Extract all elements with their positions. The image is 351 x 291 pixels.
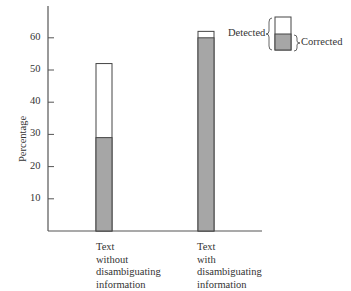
stacked-bar-chart <box>0 0 351 291</box>
category-line: information <box>197 279 262 291</box>
y-tick-label: 60 <box>30 31 41 44</box>
legend-detected-label: Detected <box>228 27 265 38</box>
category-line: Text <box>96 241 161 254</box>
y-tick-label: 10 <box>30 192 41 205</box>
category-line: without <box>96 254 161 267</box>
category-label-with: Text with disambiguating information <box>197 241 262 291</box>
legend-corrected-swatch <box>275 34 291 50</box>
y-tick-label: 40 <box>30 95 41 108</box>
category-label-without: Text without disambiguating information <box>96 241 161 291</box>
y-tick-label: 20 <box>30 160 41 173</box>
category-line: Text <box>197 241 262 254</box>
legend-corrected-label: Corrected <box>301 36 342 47</box>
category-line: disambiguating <box>197 266 262 279</box>
y-ticks <box>48 38 54 199</box>
y-tick-label: 50 <box>30 63 41 76</box>
legend <box>266 17 300 51</box>
category-line: with <box>197 254 262 267</box>
y-tick-label: 30 <box>30 127 41 140</box>
detected-brace-icon <box>266 18 272 50</box>
bar-corrected <box>96 138 112 231</box>
y-axis-label: Percentage <box>17 116 28 162</box>
corrected-brace-icon <box>294 35 300 51</box>
category-line: disambiguating <box>96 266 161 279</box>
bar-corrected <box>198 38 214 231</box>
category-line: information <box>96 279 161 291</box>
bars <box>96 31 214 231</box>
